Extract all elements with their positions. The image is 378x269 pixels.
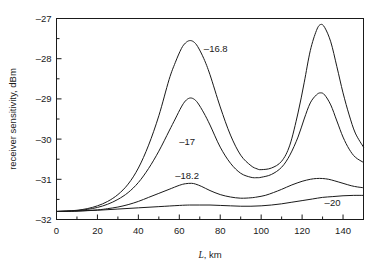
y-tick-label: –32	[36, 214, 52, 225]
y-tick-label: –30	[36, 134, 52, 145]
y-axis-title: receiver sensitivity, dBm	[7, 68, 18, 170]
x-tick-label: 80	[215, 225, 226, 236]
y-tick-label: –27	[36, 13, 52, 24]
receiver-sensitivity-plot: –27–28–29–30–31–32 020406080100120140 –1…	[0, 0, 378, 269]
y-tick-label: –28	[36, 53, 52, 64]
y-axis-tick-labels: –27–28–29–30–31–32	[36, 13, 52, 225]
x-axis-title: L, km	[197, 249, 221, 260]
x-tick-label: 120	[294, 225, 310, 236]
chart-figure: –27–28–29–30–31–32 020406080100120140 –1…	[0, 0, 378, 269]
y-axis-ticks	[57, 19, 62, 220]
y-tick-label: –31	[36, 174, 52, 185]
x-axis-ticks	[57, 215, 364, 220]
x-tick-label: 20	[92, 225, 103, 236]
x-tick-label: 40	[133, 225, 144, 236]
x-tick-label: 140	[335, 225, 351, 236]
x-axis-tick-labels: 020406080100120140	[54, 225, 351, 236]
x-tick-label: 60	[174, 225, 185, 236]
curve-label: –20	[325, 197, 341, 208]
y-tick-label: –29	[36, 93, 52, 104]
x-axis-title-units: , km	[204, 249, 222, 260]
curve-17	[57, 93, 364, 212]
curve-annotations: –16.8–17–18.2–20	[175, 43, 340, 208]
x-tick-label: 100	[253, 225, 269, 236]
curve-label: –17	[179, 136, 195, 147]
curve-label: –16.8	[204, 43, 228, 54]
x-tick-label: 0	[54, 225, 59, 236]
curve-label: –18.2	[175, 170, 199, 181]
